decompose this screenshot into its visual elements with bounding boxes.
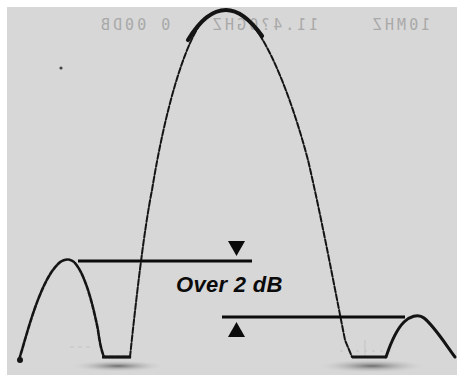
main-lobe-trace xyxy=(130,11,352,357)
floor-glow-right xyxy=(316,359,428,373)
left-sidelobe-trace xyxy=(19,260,130,360)
stray-dot xyxy=(59,66,62,69)
floor-glow-left xyxy=(70,360,166,372)
annotation-over-2db: Over 2 dB xyxy=(176,272,283,298)
right-sidelobe-trace xyxy=(386,316,455,357)
spectrum-trace-graphic xyxy=(0,0,463,382)
down-triangle-icon xyxy=(228,241,245,256)
up-triangle-icon xyxy=(228,322,245,337)
